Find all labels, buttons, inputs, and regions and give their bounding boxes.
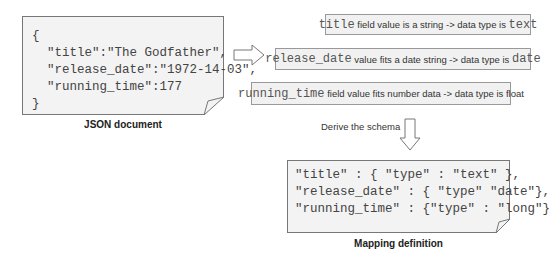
arrow-down-icon xyxy=(399,119,421,151)
mapping-line: "running_time" : {"type" : "long"} xyxy=(295,202,550,216)
arrow-right-icon xyxy=(233,44,265,66)
json-document-caption: JSON document xyxy=(22,119,224,130)
data-type: text xyxy=(509,18,538,32)
mapping-line: "release_date" : { "type" "date"}, xyxy=(295,185,550,199)
json-line: "running_time":177 xyxy=(32,80,182,94)
page-fold-icon xyxy=(204,97,224,115)
inference-text: value fits a date string -> data type is xyxy=(352,54,512,65)
json-line: "title":"The Godfather", xyxy=(32,46,227,60)
derive-schema-label: Derive the schema xyxy=(321,121,400,132)
field-name: title xyxy=(319,18,355,32)
json-line: { xyxy=(32,29,40,43)
data-type: float xyxy=(506,88,524,99)
json-line: "release_date":"1972-14-03", xyxy=(32,63,257,77)
mapping-definition-caption: Mapping definition xyxy=(287,238,510,249)
inference-note-title: title field value is a string -> data ty… xyxy=(325,14,531,35)
mapping-line: "title" : { "type" : "text" }, xyxy=(295,168,520,182)
inference-note-running-time: running_time field value fits number dat… xyxy=(251,82,511,105)
json-line: } xyxy=(32,97,40,111)
inference-text: field value fits number data -> data typ… xyxy=(325,88,506,99)
json-document: { "title":"The Godfather", "release_date… xyxy=(22,16,224,115)
field-name: running_time xyxy=(238,87,324,101)
inference-text: field value is a string -> data type is xyxy=(355,19,509,30)
mapping-definition: "title" : { "type" : "text" }, "release_… xyxy=(287,160,510,233)
field-name: release_date xyxy=(265,52,351,66)
inference-note-release-date: release_date value fits a date string ->… xyxy=(275,48,531,70)
page-fold-icon xyxy=(496,219,510,233)
data-type: date xyxy=(512,52,541,66)
